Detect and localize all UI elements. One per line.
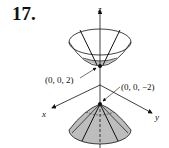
lower-vertex-label: (0, 0, −2) bbox=[121, 82, 155, 92]
x-axis-label: x bbox=[41, 109, 46, 119]
lower-paraboloid bbox=[69, 104, 131, 144]
upper-vertex-point bbox=[98, 64, 102, 68]
lower-vertex-point bbox=[98, 102, 102, 106]
z-axis-label: z bbox=[97, 4, 102, 14]
x-axis bbox=[52, 85, 100, 108]
upper-vertex-arrow bbox=[80, 68, 96, 78]
surface-diagram: z x y (0, 0, 2) (0, 0, −2) bbox=[0, 0, 169, 148]
y-axis-label: y bbox=[154, 112, 159, 122]
upper-vertex-label: (0, 0, 2) bbox=[45, 75, 74, 85]
